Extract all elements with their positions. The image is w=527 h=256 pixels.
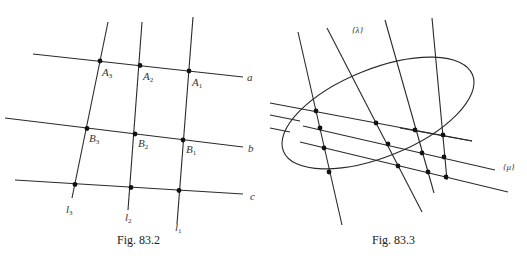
point-7 [396, 164, 401, 169]
point-12 [442, 155, 447, 160]
label-a: a [247, 71, 253, 83]
figure-83-2: A3 A2 A1 B3 B2 B1 a b c l3 l2 l1 Fig. 83… [5, 17, 255, 247]
point-A3 [98, 59, 103, 64]
caption-fig-83-3: Fig. 83.3 [372, 233, 415, 247]
point-B3 [85, 126, 90, 131]
figure-83-3: {λ} {μ} Fig. 83.3 [267, 18, 515, 247]
label-c: c [250, 190, 255, 202]
point-5 [374, 121, 379, 126]
point-B1 [181, 138, 186, 143]
point-C1 [177, 188, 182, 193]
lambda-line-3 [385, 20, 434, 193]
label-lambda-family: {λ} [352, 25, 363, 35]
point-2 [318, 126, 323, 131]
label-b: b [248, 142, 254, 154]
label-mu-family: {μ} [503, 162, 515, 172]
conic-ellipse [267, 34, 489, 192]
point-C3 [73, 182, 78, 187]
point-A1 [187, 69, 192, 74]
point-A2 [138, 63, 143, 68]
point-1 [314, 109, 319, 114]
point-9 [420, 151, 425, 156]
point-11 [441, 133, 446, 138]
line-b [5, 118, 243, 147]
label-l2: l2 [125, 211, 132, 225]
mu-line-3a [270, 128, 290, 132]
point-C2 [129, 185, 134, 190]
point-10 [426, 170, 431, 175]
label-A2: A2 [142, 70, 154, 84]
mu-line-top-short [400, 128, 472, 141]
mu-line-2 [303, 126, 495, 170]
lambda-line-2 [327, 28, 422, 212]
label-l1: l1 [175, 221, 182, 235]
line-l1 [177, 17, 193, 224]
point-3 [322, 146, 327, 151]
label-A1: A1 [191, 76, 203, 90]
label-l3: l3 [66, 203, 73, 217]
point-6 [386, 142, 391, 147]
line-l3 [72, 22, 108, 198]
label-B3: B3 [89, 132, 100, 146]
point-13 [444, 175, 449, 180]
label-B2: B2 [138, 137, 149, 151]
point-8 [413, 128, 418, 133]
line-l2 [128, 22, 142, 210]
point-B2 [133, 132, 138, 137]
point-4 [327, 170, 332, 175]
caption-fig-83-2: Fig. 83.2 [117, 233, 160, 247]
label-A3: A3 [101, 66, 113, 80]
diagram-canvas: A3 A2 A1 B3 B2 B1 a b c l3 l2 l1 Fig. 83… [0, 0, 527, 256]
label-B1: B1 [186, 143, 197, 157]
